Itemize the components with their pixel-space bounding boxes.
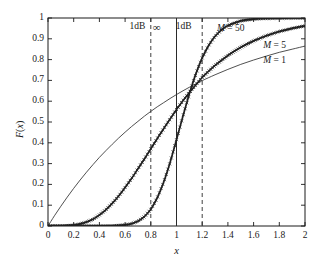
y-tick-label-10: 1 (39, 13, 44, 23)
y-tick-label-1: 0.1 (32, 200, 44, 210)
y-tick-label-7: 0.7 (32, 75, 44, 85)
annot-1db-left: 1dB (130, 22, 146, 32)
y-tick-label-0: 0 (39, 221, 44, 231)
y-tick-label-5: 0.5 (32, 117, 44, 127)
annot-infinity: ∞ (153, 22, 161, 33)
chart-figure: 00.10.20.30.40.50.60.70.80.91 00.20.40.6… (0, 0, 324, 266)
y-axis-label-text: F(x) (14, 121, 25, 138)
x-tick-label-10: 2 (290, 231, 320, 241)
annot-1db-right: 1dB (176, 22, 192, 32)
y-tick-label-3: 0.3 (32, 159, 44, 169)
y-tick-label-8: 0.8 (32, 55, 44, 65)
y-tick-label-2: 0.2 (32, 179, 44, 189)
annot-m50: M = 50 (217, 24, 245, 34)
annot-m5: M = 5 (263, 41, 286, 51)
y-tick-label-9: 0.9 (32, 34, 44, 44)
x-axis-label: x (167, 245, 187, 256)
annot-m1: M = 1 (263, 56, 286, 66)
y-tick-label-6: 0.6 (32, 96, 44, 106)
y-axis-label: F(x) (14, 121, 25, 138)
y-tick-label-4: 0.4 (32, 138, 44, 148)
